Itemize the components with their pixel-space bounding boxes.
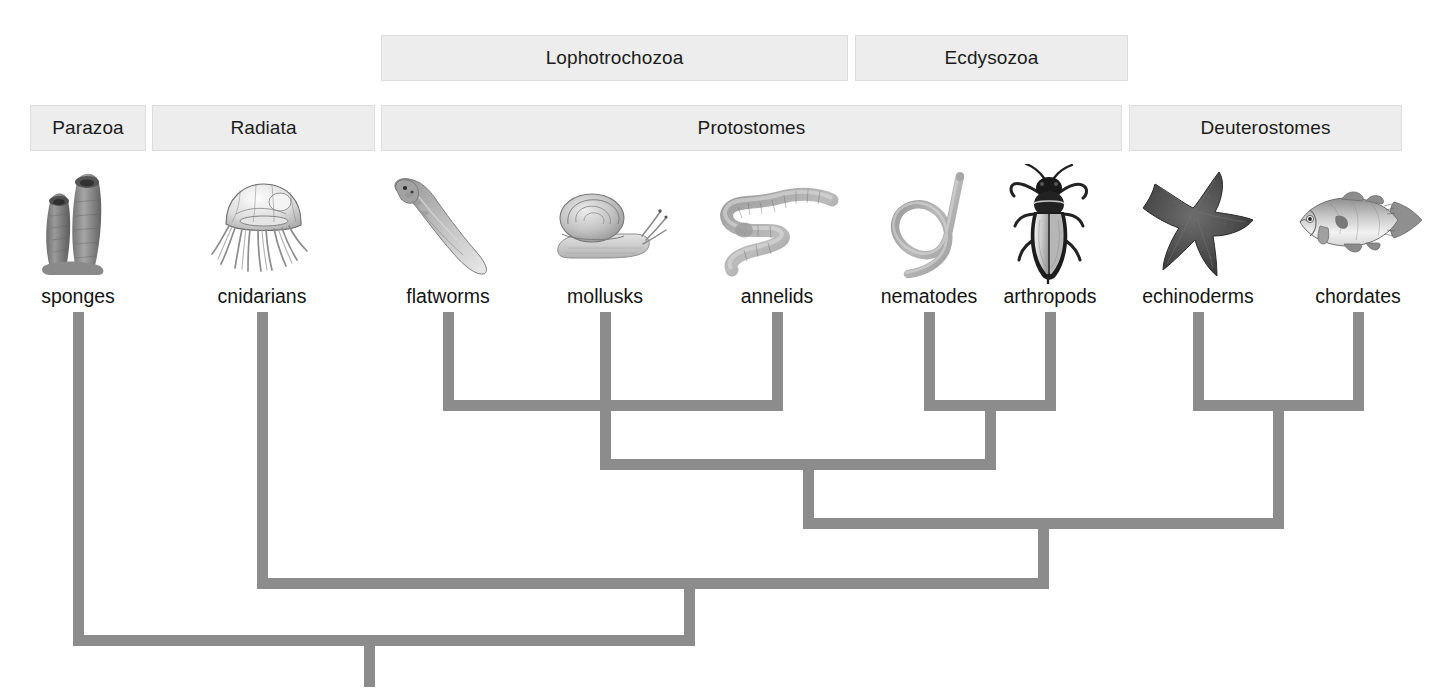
clade-box-radiata[interactable]: Radiata	[152, 105, 375, 151]
taxon-label-chordates: chordates	[1315, 285, 1401, 308]
taxon-label-sponges: sponges	[41, 285, 115, 308]
clade-box-ecdysozoa[interactable]: Ecdysozoa	[855, 35, 1128, 81]
clade-label: Radiata	[230, 117, 296, 139]
taxon-label-cnidarians: cnidarians	[218, 285, 307, 308]
taxon-label-annelids: annelids	[741, 285, 814, 308]
clade-box-deuterostomes[interactable]: Deuterostomes	[1129, 105, 1402, 151]
beetle-icon	[1004, 164, 1096, 284]
branch-tip-mollusks	[600, 312, 611, 411]
branch-stem-deuterostomes	[1273, 400, 1284, 528]
flatworm-icon	[383, 175, 513, 277]
snail-icon	[542, 190, 668, 270]
starfish-icon	[1141, 166, 1255, 278]
branch-root-stem	[364, 635, 375, 687]
branch-stem-eumetazoa	[684, 578, 695, 641]
cladogram-figure: Lophotrochozoa Ecdysozoa Parazoa Radiata…	[0, 0, 1432, 698]
clade-label: Protostomes	[698, 117, 806, 139]
branch-tip-annelids	[772, 312, 783, 411]
branch-h-lophotrochozoa-upper	[443, 400, 783, 411]
clade-label: Ecdysozoa	[945, 47, 1039, 69]
clade-label: Lophotrochozoa	[546, 47, 684, 69]
clade-label: Deuterostomes	[1200, 117, 1330, 139]
taxon-label-mollusks: mollusks	[567, 285, 643, 308]
branch-h-metazoa-root	[73, 635, 695, 646]
branch-tip-cnidarians	[257, 312, 268, 589]
taxon-label-echinoderms: echinoderms	[1142, 285, 1254, 308]
taxon-label-nematodes: nematodes	[881, 285, 977, 308]
branch-h-eumetazoa	[257, 578, 1049, 589]
clade-label: Parazoa	[52, 117, 123, 139]
fish-icon	[1290, 186, 1426, 266]
nematode-icon	[874, 172, 984, 282]
clade-box-protostomes[interactable]: Protostomes	[381, 105, 1122, 151]
sponge-icon	[30, 168, 126, 276]
taxon-label-arthropods: arthropods	[1003, 285, 1096, 308]
clade-box-lophotrochozoa[interactable]: Lophotrochozoa	[381, 35, 848, 81]
clade-box-parazoa[interactable]: Parazoa	[30, 105, 146, 151]
taxon-label-flatworms: flatworms	[406, 285, 489, 308]
jellyfish-icon	[210, 176, 314, 276]
branch-tip-echinoderms	[1193, 312, 1204, 411]
branch-tip-arthropods	[1045, 312, 1056, 411]
earthworm-icon	[712, 178, 842, 278]
branch-tip-nematodes	[924, 312, 935, 411]
branch-tip-flatworms	[443, 312, 454, 411]
branch-tip-chordates	[1353, 312, 1364, 411]
branch-tip-sponges	[73, 312, 84, 646]
branch-h-protostomes	[600, 459, 996, 470]
